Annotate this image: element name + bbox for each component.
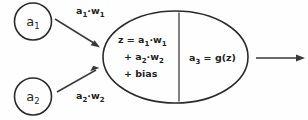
edge-a1-label: a1·w1 <box>76 5 105 19</box>
activation-cell: a3 = g(z) <box>189 52 236 66</box>
input-node-a2: a2 <box>15 78 52 115</box>
edge-a2-label: a2·w2 <box>76 90 105 104</box>
input-node-a1: a1 <box>15 3 52 40</box>
summation-line-3: + bias <box>124 68 158 79</box>
edge-a1-to-neuron: a1·w1 <box>55 5 105 48</box>
edge-a1-line <box>55 19 97 45</box>
output-arrow <box>256 54 305 61</box>
summation-line-1: z = a1·w1 <box>118 34 167 48</box>
output-arrowhead <box>296 54 305 61</box>
input-node-a1-label: a1 <box>26 14 39 31</box>
edge-a2-to-neuron: a2·w2 <box>57 66 105 104</box>
input-node-a2-label: a2 <box>26 89 39 106</box>
neuron-diagram-canvas: a1 a2 a1·w1 a2·w2 z = a1·w1 + a2·w2 <box>0 0 308 120</box>
summation-line-2: + a2·w2 <box>124 51 164 65</box>
neuron-diagram: a1 a2 a1·w1 a2·w2 z = a1·w1 + a2·w2 <box>0 0 308 120</box>
edge-a2-line <box>57 70 96 92</box>
activation-expression: a3 = g(z) <box>189 52 236 66</box>
summation-cell: z = a1·w1 + a2·w2 + bias <box>118 34 167 79</box>
